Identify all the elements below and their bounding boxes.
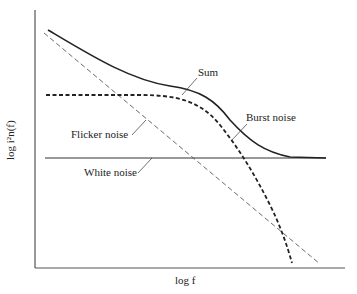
sum-label: Sum xyxy=(198,66,218,78)
burst-noise-label: Burst noise xyxy=(246,111,296,123)
flicker-leader xyxy=(132,120,146,135)
white-noise-label: White noise xyxy=(84,166,137,178)
flicker-noise-line xyxy=(44,33,320,264)
burst-leader xyxy=(232,124,247,140)
x-axis-label: log f xyxy=(175,274,195,286)
noise-spectrum-plot xyxy=(0,0,357,294)
y-axis-label: log i²n(f) xyxy=(4,120,16,160)
white-leader xyxy=(138,158,152,173)
flicker-noise-label: Flicker noise xyxy=(71,128,128,140)
